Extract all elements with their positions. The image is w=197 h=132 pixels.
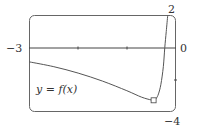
y-min-label: −4 — [164, 116, 180, 127]
function-label: y = f(x) — [36, 84, 77, 95]
x-max-label: 0 — [180, 43, 187, 54]
y-max-label: 2 — [168, 4, 175, 15]
minimum-point-marker — [151, 98, 156, 103]
viewing-window-frame — [30, 16, 176, 112]
x-min-label: −3 — [6, 43, 22, 54]
chart-plot — [0, 0, 197, 132]
